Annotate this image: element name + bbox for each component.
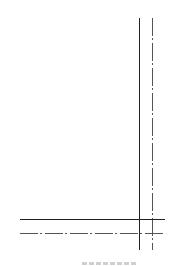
horizontal-solid-line: [20, 219, 165, 220]
horizontal-dash-dot-line: [20, 233, 165, 234]
clipped-caption-glyphs: [82, 262, 138, 265]
vertical-solid-line: [139, 18, 140, 250]
vertical-dash-dot-line: [152, 18, 153, 250]
figure-caption: [40, 259, 146, 266]
